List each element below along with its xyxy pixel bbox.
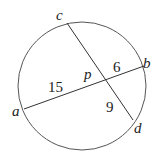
segment-pb-length: 6	[113, 59, 121, 75]
segment-ap-length: 15	[48, 79, 63, 95]
label-p: p	[83, 66, 92, 82]
circle	[18, 22, 146, 150]
chord-diagram: c b a d p 15 6 9	[0, 0, 158, 159]
segment-pd-length: 9	[106, 99, 114, 115]
label-c: c	[56, 7, 63, 23]
label-a: a	[12, 103, 20, 119]
label-b: b	[143, 55, 151, 71]
label-d: d	[134, 120, 142, 136]
